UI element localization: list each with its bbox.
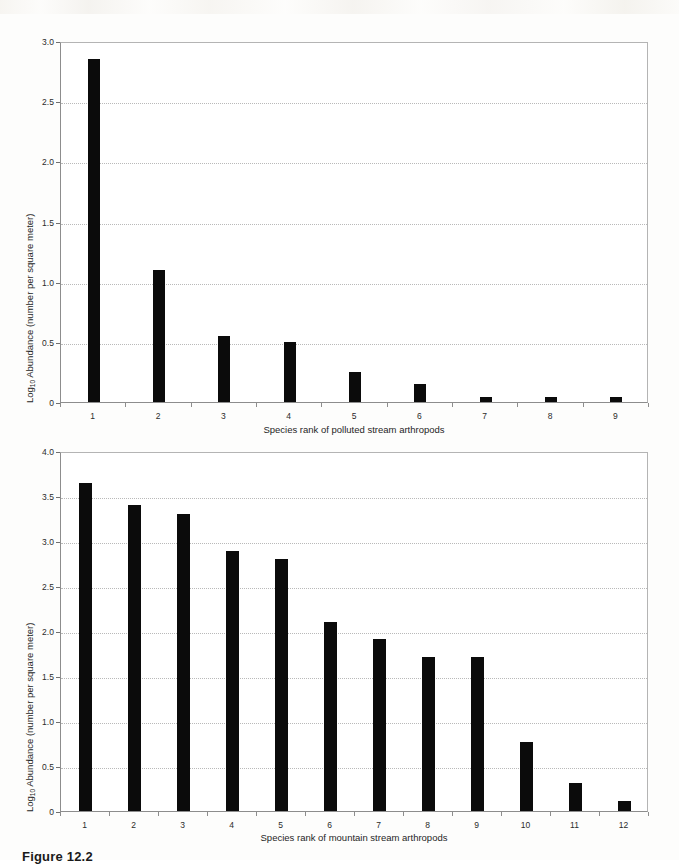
bar <box>275 559 288 811</box>
x-tick-label: 2 <box>131 820 136 830</box>
y-tick-mark <box>56 102 60 103</box>
y-axis-title-suffix: Abundance (number per square meter) <box>24 623 35 789</box>
y-axis-title-0: Log10 Abundance (number per square meter… <box>24 41 35 403</box>
bar <box>520 742 533 811</box>
bar <box>284 342 296 402</box>
x-tick-label: 7 <box>376 820 381 830</box>
y-tick-label: 2.0 <box>42 157 54 167</box>
bar <box>545 397 557 402</box>
y-tick-mark <box>56 767 60 768</box>
y-tick-label: 2.5 <box>42 97 54 107</box>
y-tick-mark <box>56 162 60 163</box>
bar <box>128 505 141 811</box>
x-tick-mark <box>387 403 388 407</box>
y-tick-label: 3.0 <box>42 37 54 47</box>
x-tick-mark <box>583 403 584 407</box>
y-axis-title-1: Log10 Abundance (number per square meter… <box>24 450 35 812</box>
x-tick-label: 2 <box>156 411 161 421</box>
x-tick-label: 5 <box>352 411 357 421</box>
y-tick-mark <box>56 677 60 678</box>
bar <box>88 59 100 402</box>
y-tick-mark <box>56 223 60 224</box>
x-tick-label: 9 <box>474 820 479 830</box>
bar <box>218 336 230 402</box>
y-tick-label: 1.5 <box>42 672 54 682</box>
x-tick-mark <box>648 403 649 407</box>
y-tick-mark <box>56 343 60 344</box>
x-tick-mark <box>109 812 110 816</box>
x-tick-label: 7 <box>482 411 487 421</box>
y-tick-label: 0.5 <box>42 338 54 348</box>
bar <box>471 657 484 811</box>
x-tick-mark <box>256 812 257 816</box>
x-tick-mark <box>550 812 551 816</box>
x-tick-mark <box>207 812 208 816</box>
y-tick-mark <box>56 497 60 498</box>
x-tick-mark <box>60 403 61 407</box>
x-tick-mark <box>452 812 453 816</box>
y-axis-title-suffix: Abundance (number per square meter) <box>24 214 35 380</box>
y-tick-label: 3.5 <box>42 492 54 502</box>
x-axis-title-1: Species rank of mountain stream arthropo… <box>60 832 648 843</box>
x-tick-label: 8 <box>548 411 553 421</box>
y-tick-mark <box>56 722 60 723</box>
x-tick-mark <box>256 403 257 407</box>
y-tick-mark <box>56 42 60 43</box>
x-tick-mark <box>191 403 192 407</box>
figure-caption: Figure 12.2 <box>22 849 93 864</box>
x-tick-mark <box>125 403 126 407</box>
x-tick-label: 8 <box>425 820 430 830</box>
chart-polluted-stream: Log10 Abundance (number per square meter… <box>0 0 679 440</box>
y-tick-label: 1.0 <box>42 278 54 288</box>
bar <box>177 514 190 811</box>
y-tick-label: 2.0 <box>42 627 54 637</box>
x-tick-mark <box>321 403 322 407</box>
y-tick-mark <box>56 283 60 284</box>
bar <box>79 483 92 812</box>
bar <box>349 372 361 402</box>
y-axis-title-sub: 10 <box>29 380 36 387</box>
x-tick-mark <box>452 403 453 407</box>
x-tick-mark <box>60 812 61 816</box>
bar <box>373 639 386 811</box>
x-tick-label: 4 <box>286 411 291 421</box>
x-tick-label: 5 <box>278 820 283 830</box>
x-tick-mark <box>501 812 502 816</box>
y-axis-title-prefix: Log <box>24 387 35 403</box>
bar-series <box>61 43 647 402</box>
x-tick-label: 4 <box>229 820 234 830</box>
x-tick-mark <box>158 812 159 816</box>
x-tick-label: 11 <box>570 820 579 830</box>
y-tick-label: 0.5 <box>42 762 54 772</box>
x-tick-label: 6 <box>327 820 332 830</box>
x-tick-mark <box>648 812 649 816</box>
bar <box>618 801 631 811</box>
y-tick-label: 0 <box>49 398 54 408</box>
y-tick-label: 3.0 <box>42 537 54 547</box>
bar <box>422 657 435 811</box>
x-axis-title-0: Species rank of polluted stream arthropo… <box>60 424 648 435</box>
x-tick-mark <box>599 812 600 816</box>
x-tick-label: 6 <box>417 411 422 421</box>
plot-area-polluted-stream <box>60 42 648 403</box>
y-tick-mark <box>56 587 60 588</box>
y-tick-mark <box>56 452 60 453</box>
y-tick-label: 0 <box>49 807 54 817</box>
x-tick-label: 10 <box>521 820 530 830</box>
x-tick-label: 1 <box>82 820 87 830</box>
y-tick-mark <box>56 632 60 633</box>
x-tick-label: 12 <box>619 820 628 830</box>
x-tick-label: 1 <box>90 411 95 421</box>
y-tick-label: 4.0 <box>42 447 54 457</box>
y-axis-title-prefix: Log <box>24 796 35 812</box>
bar <box>480 397 492 402</box>
x-tick-mark <box>305 812 306 816</box>
y-tick-label: 2.5 <box>42 582 54 592</box>
bar <box>414 384 426 402</box>
bar-series <box>61 453 647 811</box>
y-tick-mark <box>56 542 60 543</box>
bar <box>153 270 165 402</box>
bar <box>226 551 239 811</box>
x-tick-mark <box>403 812 404 816</box>
